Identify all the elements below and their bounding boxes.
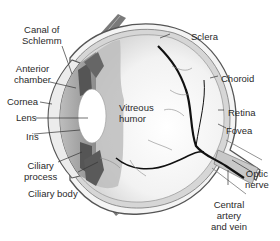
label-central-artery-and-vein: Central artery and vein [211, 199, 247, 232]
label-fovea: Fovea [226, 125, 252, 136]
label-canal-of-schlemm: Canal of Schlemm [22, 24, 62, 46]
eye-anatomy-diagram: Canal of Schlemm Anterior chamber Cornea… [0, 0, 280, 241]
lens-shape [78, 89, 106, 143]
label-anterior-chamber: Anterior chamber [14, 63, 51, 85]
label-retina: Retina [228, 107, 255, 118]
label-ciliary-body: Ciliary body [28, 188, 78, 199]
label-iris: Iris [26, 131, 39, 142]
label-choroid: Choroid [221, 73, 254, 84]
label-optic-nerve: Optic nerve [245, 168, 269, 190]
label-sclera: Sclera [191, 31, 218, 42]
label-ciliary-process: Ciliary process [24, 160, 57, 182]
label-vitreous-humor: Vitreous humor [119, 102, 154, 124]
label-cornea: Cornea [7, 96, 38, 107]
label-lens: Lens [16, 112, 37, 123]
